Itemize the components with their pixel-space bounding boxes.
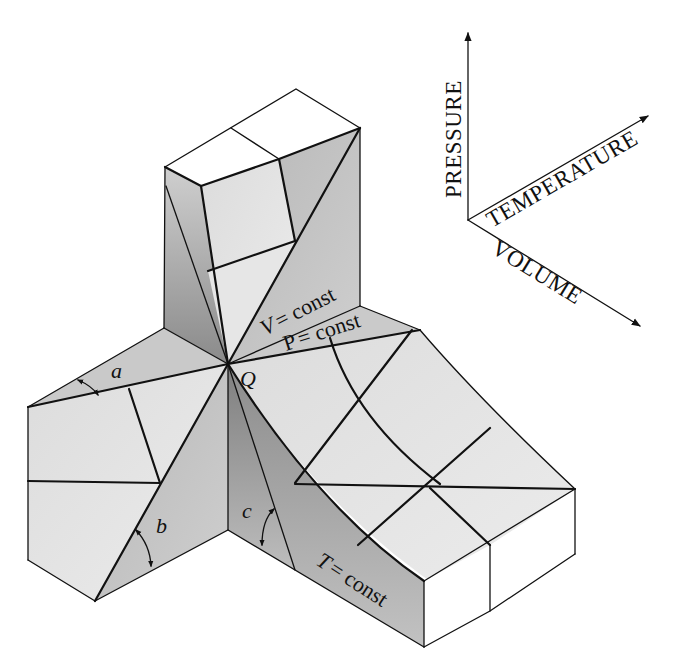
pressure-axis-label: PRESSURE <box>441 80 466 198</box>
angle-c-label: c <box>242 498 252 523</box>
pvt-surface-diagram: PRESSURE TEMPERATURE VOLUME <box>0 0 697 665</box>
point-q-label: Q <box>240 366 256 391</box>
volume-axis-label: VOLUME <box>487 235 587 309</box>
axes-triad: PRESSURE TEMPERATURE VOLUME <box>441 33 648 326</box>
temperature-axis-label: TEMPERATURE <box>482 126 642 233</box>
angle-a-label: a <box>111 358 122 383</box>
angle-b-label: b <box>156 513 167 538</box>
